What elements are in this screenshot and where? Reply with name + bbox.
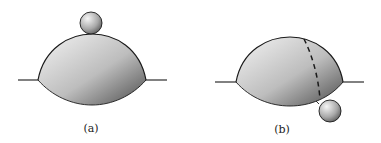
panel-b: (b) <box>215 37 364 136</box>
panel-label-b: (b) <box>274 123 290 136</box>
sphere <box>319 100 341 122</box>
sphere <box>80 12 102 34</box>
panel-a: (a) <box>18 12 167 135</box>
panel-label-a: (a) <box>83 122 98 135</box>
detach-tick <box>316 101 319 104</box>
diagram: (a) (b) <box>0 0 381 143</box>
